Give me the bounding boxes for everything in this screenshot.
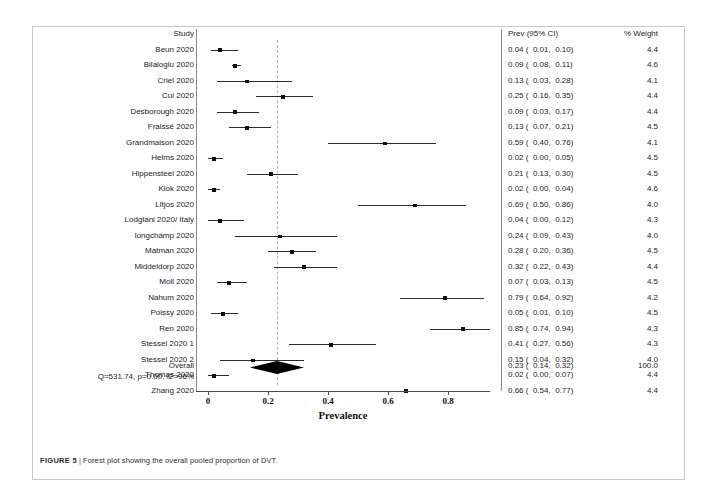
- study-label: Grandmaison 2020: [34, 138, 194, 148]
- table-row: Matman 20200.28 ( 0.20, 0.36)4.5: [0, 246, 713, 262]
- study-prevalence-ci: 0.07 ( 0.03, 0.13): [508, 277, 616, 287]
- table-row: Poissy 20200.05 ( 0.01, 0.10)4.5: [0, 308, 713, 324]
- study-prevalence-ci: 0.13 ( 0.03, 0.28): [508, 76, 616, 86]
- study-prevalence-ci: 0.66 ( 0.54, 0.77): [508, 386, 616, 396]
- table-row: Ren 20200.85 ( 0.74, 0.94)4.3: [0, 324, 713, 340]
- table-row: Helms 20200.02 ( 0.00, 0.05)4.5: [0, 153, 713, 169]
- study-prevalence-ci: 0.02 ( 0.00, 0.05): [508, 153, 616, 163]
- study-label: Lodglani 2020/ Italy: [34, 215, 194, 225]
- study-weight: 4.6: [616, 184, 658, 194]
- study-weight: 4.1: [616, 138, 658, 148]
- study-prevalence-ci: 0.85 ( 0.74, 0.94): [508, 324, 616, 334]
- study-prevalence-ci: 0.04 ( 0.01, 0.10): [508, 45, 616, 55]
- study-label: Matman 2020: [34, 246, 194, 256]
- figure-caption-text: Forest plot showing the overall pooled p…: [83, 456, 278, 465]
- study-prevalence-ci: 0.69 ( 0.50, 0.86): [508, 200, 616, 210]
- study-weight: 4.0: [616, 231, 658, 241]
- study-label: Helms 2020: [34, 153, 194, 163]
- x-axis-tick: [268, 391, 269, 395]
- table-row: Grandmaison 20200.59 ( 0.40, 0.76)4.1: [0, 138, 713, 154]
- study-weight: 4.5: [616, 153, 658, 163]
- overall-prev: 0.23 ( 0.14, 0.32): [508, 361, 616, 371]
- table-row: Stessel 2020 10.41 ( 0.27, 0.56)4.3: [0, 339, 713, 355]
- study-label: Bilaloglu 2020: [34, 60, 194, 70]
- study-weight: 4.4: [616, 45, 658, 55]
- study-weight: 4.5: [616, 277, 658, 287]
- study-weight: 4.3: [616, 339, 658, 349]
- x-axis-tick: [208, 391, 209, 395]
- study-weight: 4.5: [616, 246, 658, 256]
- study-weight: 4.4: [616, 262, 658, 272]
- figure-root: Study Prev (95% CI) % Weight Beun 20200.…: [0, 0, 713, 492]
- study-weight: 4.1: [616, 76, 658, 86]
- study-weight: 4.2: [616, 293, 658, 303]
- study-label: Klok 2020: [34, 184, 194, 194]
- study-label: Lltjos 2020: [34, 200, 194, 210]
- study-label: Poissy 2020: [34, 308, 194, 318]
- study-weight: 4.4: [616, 107, 658, 117]
- figure-caption-label: FIGURE 5: [40, 456, 77, 465]
- study-prevalence-ci: 0.32 ( 0.22, 0.43): [508, 262, 616, 272]
- figure-caption: FIGURE 5|Forest plot showing the overall…: [40, 455, 660, 466]
- study-prevalence-ci: 0.09 ( 0.08, 0.11): [508, 60, 616, 70]
- table-row: Beun 20200.04 ( 0.01, 0.10)4.4: [0, 45, 713, 61]
- study-label: Stessel 2020 1: [34, 339, 194, 349]
- study-weight: 4.3: [616, 324, 658, 334]
- table-row: Desborough 20200.09 ( 0.03, 0.17)4.4: [0, 107, 713, 123]
- study-label: Criel 2020: [34, 76, 194, 86]
- study-prevalence-ci: 0.79 ( 0.64, 0.92): [508, 293, 616, 303]
- study-label: Hippensteel 2020: [34, 169, 194, 179]
- x-axis-tick-label: 0.2: [253, 396, 283, 406]
- x-axis-tick: [328, 391, 329, 395]
- x-axis-tick-label: 0.6: [373, 396, 403, 406]
- x-axis-tick: [448, 391, 449, 395]
- study-prevalence-ci: 0.13 ( 0.07, 0.21): [508, 122, 616, 132]
- study-weight: 4.6: [616, 60, 658, 70]
- table-row: longchamp 20200.24 ( 0.09, 0.43)4.0: [0, 231, 713, 247]
- study-label: Nahum 2020: [34, 293, 194, 303]
- study-label: Beun 2020: [34, 45, 194, 55]
- table-row: Cui 20200.25 ( 0.16, 0.35)4.4: [0, 91, 713, 107]
- study-prevalence-ci: 0.41 ( 0.27, 0.56): [508, 339, 616, 349]
- table-row: Lodglani 2020/ Italy0.04 ( 0.00, 0.12)4.…: [0, 215, 713, 231]
- table-row: Moll 20200.07 ( 0.03, 0.13)4.5: [0, 277, 713, 293]
- study-label: Moll 2020: [34, 277, 194, 287]
- table-row: Middeldorp 20200.32 ( 0.22, 0.43)4.4: [0, 262, 713, 278]
- table-row: Bilaloglu 20200.09 ( 0.08, 0.11)4.6: [0, 60, 713, 76]
- study-label: Middeldorp 2020: [34, 262, 194, 272]
- study-prevalence-ci: 0.04 ( 0.00, 0.12): [508, 215, 616, 225]
- study-weight: 4.5: [616, 308, 658, 318]
- study-prevalence-ci: 0.28 ( 0.20, 0.36): [508, 246, 616, 256]
- study-weight: 4.4: [616, 386, 658, 396]
- study-weight: 4.4: [616, 91, 658, 101]
- study-prevalence-ci: 0.25 ( 0.16, 0.35): [508, 91, 616, 101]
- table-row: Fraissé 20200.13 ( 0.07, 0.21)4.5: [0, 122, 713, 138]
- table-row: Zhang 20200.66 ( 0.54, 0.77)4.4: [0, 386, 713, 402]
- table-row: Lltjos 20200.69 ( 0.50, 0.86)4.0: [0, 200, 713, 216]
- table-row: Klok 20200.02 ( 0.00, 0.04)4.6: [0, 184, 713, 200]
- study-prevalence-ci: 0.05 ( 0.01, 0.10): [508, 308, 616, 318]
- x-axis-tick: [388, 391, 389, 395]
- study-weight: 4.5: [616, 169, 658, 179]
- study-weight: 4.3: [616, 215, 658, 225]
- study-label: longchamp 2020: [34, 231, 194, 241]
- table-row: Nahum 20200.79 ( 0.64, 0.92)4.2: [0, 293, 713, 309]
- x-axis-tick-label: 0.4: [313, 396, 343, 406]
- study-prevalence-ci: 0.02 ( 0.00, 0.04): [508, 184, 616, 194]
- study-label: Desborough 2020: [34, 107, 194, 117]
- table-row: Hippensteel 20200.21 ( 0.13, 0.30)4.5: [0, 169, 713, 185]
- study-label: Cui 2020: [34, 91, 194, 101]
- study-weight: 4.5: [616, 122, 658, 132]
- heterogeneity-stats: Q=531.74, p=0.00, I2=96%: [14, 372, 194, 382]
- study-prevalence-ci: 0.09 ( 0.03, 0.17): [508, 107, 616, 117]
- x-axis-title: Prevalence: [196, 410, 490, 421]
- study-prevalence-ci: 0.21 ( 0.13, 0.30): [508, 169, 616, 179]
- study-prevalence-ci: 0.59 ( 0.40, 0.76): [508, 138, 616, 148]
- overall-weight: 100.0: [616, 361, 658, 371]
- study-label: Zhang 2020: [34, 386, 194, 396]
- study-label: Ren 2020: [34, 324, 194, 334]
- overall-label: Overall: [34, 361, 194, 371]
- x-axis-tick-label: 0.8: [433, 396, 463, 406]
- study-weight: 4.0: [616, 200, 658, 210]
- x-axis-line: [196, 391, 490, 392]
